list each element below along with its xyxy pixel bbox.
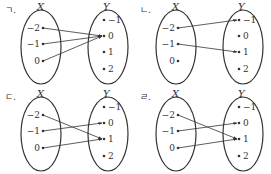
codomain-point	[238, 155, 241, 158]
codomain-set-name: Y	[238, 88, 245, 99]
mapping-arrows-svg	[0, 87, 135, 174]
codomain-element-label: 2	[108, 151, 114, 161]
panel-label: ㄷ.	[5, 90, 16, 103]
codomain-element-label: 0	[108, 118, 114, 128]
codomain-point	[238, 51, 241, 54]
codomain-point	[103, 68, 106, 71]
codomain-element-label: 1	[243, 47, 249, 57]
codomain-point	[103, 35, 106, 38]
domain-element-label: 0	[169, 143, 175, 153]
mapping-arrow	[178, 44, 237, 52]
mapping-arrow	[178, 139, 237, 148]
panel-giyeok: ㄱ.XY−2−10−1012	[0, 0, 135, 87]
panel-label: ㄴ.	[140, 3, 151, 16]
mapping-arrows-svg	[135, 0, 270, 87]
codomain-element-label: 2	[108, 64, 114, 74]
codomain-element-label: 1	[243, 134, 249, 144]
panel-rieul: ㄹ.XY−2−10−1012	[135, 87, 270, 174]
codomain-set-name: Y	[103, 1, 110, 12]
mapping-arrow	[178, 20, 237, 28]
codomain-point	[238, 106, 241, 109]
domain-element-label: −2	[27, 110, 40, 120]
codomain-element-label: 0	[243, 118, 249, 128]
domain-element-label: −2	[162, 110, 175, 120]
codomain-point	[238, 19, 241, 22]
domain-element-label: −2	[27, 23, 40, 33]
mapping-arrows-svg	[0, 0, 135, 87]
codomain-element-label: −1	[243, 15, 256, 25]
codomain-point	[103, 138, 106, 141]
domain-element-label: 0	[34, 143, 40, 153]
domain-set-name: X	[37, 1, 44, 12]
codomain-point	[103, 19, 106, 22]
codomain-set-name: Y	[103, 88, 110, 99]
domain-point	[177, 60, 180, 63]
codomain-element-label: 1	[108, 134, 114, 144]
codomain-element-label: 1	[108, 47, 114, 57]
codomain-element-label: 2	[243, 151, 249, 161]
codomain-point	[103, 122, 106, 125]
domain-element-label: −1	[162, 126, 175, 136]
codomain-point	[103, 155, 106, 158]
codomain-point	[103, 51, 106, 54]
domain-set-name: X	[172, 88, 179, 99]
domain-set-name: X	[37, 88, 44, 99]
codomain-set-name: Y	[238, 1, 245, 12]
mapping-arrow	[43, 28, 102, 36]
domain-set-name: X	[172, 1, 179, 12]
domain-element-label: −1	[27, 39, 40, 49]
mapping-arrow	[43, 139, 102, 148]
domain-element-label: −1	[162, 39, 175, 49]
panel-nieun: ㄴ.XY−2−10−1012	[135, 0, 270, 87]
panel-label: ㄱ.	[5, 3, 16, 16]
panel-label: ㄹ.	[140, 90, 151, 103]
mapping-arrow	[43, 123, 102, 131]
codomain-element-label: 2	[243, 64, 249, 74]
codomain-point	[103, 106, 106, 109]
codomain-point	[238, 138, 241, 141]
codomain-element-label: −1	[108, 15, 121, 25]
panel-digeut: ㄷ.XY−2−10−1012	[0, 87, 135, 174]
domain-element-label: 0	[34, 56, 40, 66]
domain-element-label: 0	[169, 56, 175, 66]
domain-element-label: −1	[27, 126, 40, 136]
codomain-point	[238, 35, 241, 38]
mapping-arrows-svg	[135, 87, 270, 174]
codomain-element-label: −1	[243, 102, 256, 112]
domain-element-label: −2	[162, 23, 175, 33]
mapping-arrow	[178, 123, 237, 131]
codomain-element-label: −1	[108, 102, 121, 112]
codomain-element-label: 0	[243, 31, 249, 41]
codomain-point	[238, 122, 241, 125]
codomain-point	[238, 68, 241, 71]
codomain-element-label: 0	[108, 31, 114, 41]
